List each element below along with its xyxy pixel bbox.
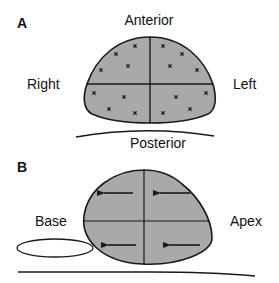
panel-a-label: A (17, 15, 27, 31)
base-ellipse (17, 239, 93, 257)
right-label: Right (27, 76, 60, 92)
posterior-label: Posterior (130, 135, 186, 151)
longitudinal-section-shape (84, 170, 212, 264)
baseline-surface (18, 272, 255, 276)
panel-b-label: B (17, 159, 27, 175)
left-label: Left (233, 76, 256, 92)
apex-label: Apex (230, 213, 262, 229)
panel-a: A Anterior Right Left Posterior (17, 12, 256, 151)
anterior-label: Anterior (124, 12, 173, 28)
panel-b: B Base Apex (17, 159, 262, 276)
base-label: Base (35, 213, 67, 229)
diagram-canvas: A Anterior Right Left Posterior B Base A… (0, 0, 279, 283)
